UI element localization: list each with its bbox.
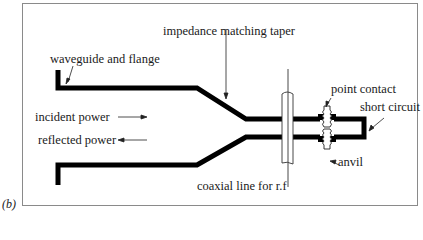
label-reflected-power: reflected power bbox=[38, 134, 116, 147]
label-waveguide-and-flange: waveguide and flange bbox=[50, 53, 160, 66]
label-anvil: anvil bbox=[338, 156, 363, 169]
short-circuit-wall bbox=[334, 119, 364, 137]
coaxial-line bbox=[282, 69, 293, 187]
anvil-bellows bbox=[323, 129, 332, 149]
label-coaxial-line: coaxial line for r.f bbox=[197, 180, 287, 193]
label-incident-power: incident power bbox=[35, 111, 110, 124]
point-contact-bellows bbox=[323, 106, 332, 127]
point-contact-assembly bbox=[318, 106, 336, 149]
label-short-circuit: short circuit bbox=[360, 101, 420, 114]
label-impedance-matching-taper: impedance matching taper bbox=[163, 25, 295, 38]
panel-label: (b) bbox=[2, 197, 16, 212]
label-point-contact: point contact bbox=[331, 83, 396, 96]
